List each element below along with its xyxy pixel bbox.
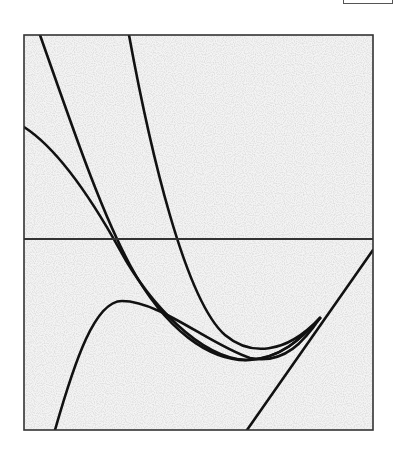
- paper-grain: [24, 35, 373, 430]
